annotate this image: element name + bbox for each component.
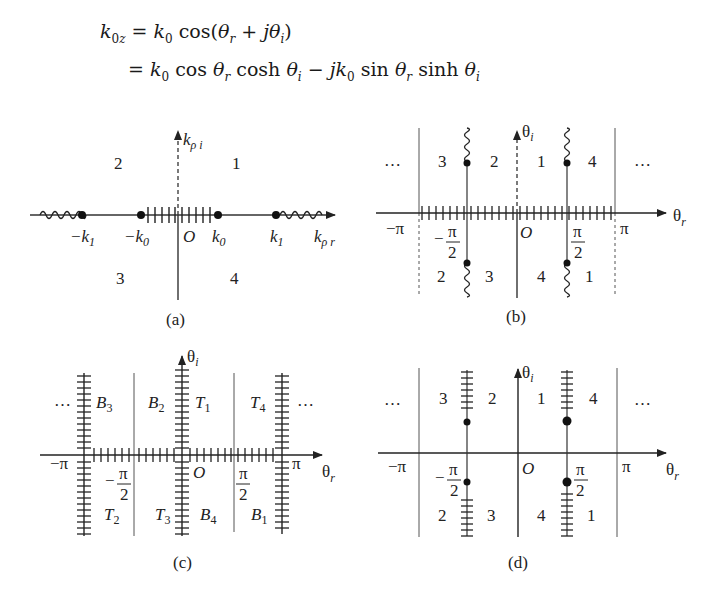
panel-c: θi θr −π π − π 2 π 2 O … … B3 B2 T1 T4 T… xyxy=(40,347,335,572)
branch-point xyxy=(563,478,572,487)
tick-half-pi: π 2 xyxy=(236,464,250,504)
region-label-T1: T1 xyxy=(195,393,210,415)
svg-text:π: π xyxy=(239,464,248,483)
axis-label-kpr: kρ r xyxy=(314,227,335,249)
wavy-line-lower-left xyxy=(465,263,470,297)
region-label: 2 xyxy=(438,506,447,525)
svg-text:−: − xyxy=(435,468,445,487)
label-k1: k1 xyxy=(270,227,284,249)
tick-neg-half-pi: − π 2 xyxy=(435,460,461,500)
region-label: 3 xyxy=(439,389,448,408)
svg-text:2: 2 xyxy=(448,243,457,262)
svg-text:π: π xyxy=(449,460,458,479)
axis-label-theta-i: θi xyxy=(187,347,199,369)
tick-pi: π xyxy=(620,219,629,238)
caption-a: (a) xyxy=(166,310,185,329)
region-label: 1 xyxy=(232,154,241,173)
region-label: 2 xyxy=(488,389,497,408)
point-k1 xyxy=(272,211,280,219)
region-label: 2 xyxy=(490,152,499,171)
tick-neg-pi: −π xyxy=(388,457,407,476)
region-label: 2 xyxy=(114,154,123,173)
tick-neg-half-pi: − π 2 xyxy=(105,464,131,504)
axis-label-theta-i: θi xyxy=(522,363,534,385)
wavy-line-lower-right xyxy=(565,263,570,297)
svg-text:−: − xyxy=(105,471,115,490)
tick-neg-pi: −π xyxy=(386,219,405,238)
axis-label-theta-i: θi xyxy=(522,122,534,144)
svg-text:π: π xyxy=(576,460,585,479)
caption-b: (b) xyxy=(506,307,526,326)
caption-d: (d) xyxy=(508,553,528,572)
region-label: 4 xyxy=(537,267,546,286)
region-label: 1 xyxy=(537,389,546,408)
branch-point xyxy=(464,160,471,167)
svg-text:π: π xyxy=(573,222,582,241)
axis-label-theta-r: θr xyxy=(673,206,686,229)
tick-pi: π xyxy=(622,457,631,476)
branch-point xyxy=(464,260,471,267)
tick-pi: π xyxy=(292,454,301,473)
wavy-line-upper-right xyxy=(565,128,570,162)
svg-text:2: 2 xyxy=(576,481,585,500)
svg-text:π: π xyxy=(119,464,128,483)
region-label: 4 xyxy=(537,506,546,525)
ellipsis-left: … xyxy=(54,391,71,410)
region-label: 3 xyxy=(487,506,496,525)
region-label-B1: B1 xyxy=(251,505,267,527)
region-label: 4 xyxy=(589,389,598,408)
region-label: 1 xyxy=(587,506,596,525)
axis-label-theta-r: θr xyxy=(322,462,335,485)
branch-point xyxy=(464,479,471,486)
label-neg-k1: −k1 xyxy=(70,227,95,249)
region-label-B3: B3 xyxy=(96,393,112,415)
ellipsis-left: … xyxy=(384,151,401,170)
label-neg-k0: −k0 xyxy=(124,227,149,249)
caption-c: (c) xyxy=(173,553,192,572)
region-label-T4: T4 xyxy=(250,393,265,415)
label-origin: O xyxy=(193,463,205,482)
region-label: 4 xyxy=(230,269,239,288)
svg-text:2: 2 xyxy=(450,481,459,500)
svg-text:2: 2 xyxy=(239,485,248,504)
region-label: 2 xyxy=(437,267,446,286)
point-neg-k0 xyxy=(137,211,145,219)
svg-text:2: 2 xyxy=(120,485,129,504)
panel-a: kρ i kρ r −k1 −k0 O k0 k1 2 1 3 4 (a) xyxy=(30,130,335,329)
ellipsis-right: … xyxy=(297,391,314,410)
label-origin: O xyxy=(183,227,195,246)
tick-half-pi: π 2 xyxy=(571,222,585,262)
panel-d: θi θr −π π − π 2 π 2 O … … 3 2 1 4 2 3 4… xyxy=(378,363,679,572)
branch-point xyxy=(564,260,571,267)
wavy-line-upper-left xyxy=(465,128,470,162)
tick-neg-pi: −π xyxy=(50,454,69,473)
region-label-B4: B4 xyxy=(200,505,216,527)
region-label-T3: T3 xyxy=(155,505,170,527)
region-label-T2: T2 xyxy=(104,505,119,527)
axis-label-kpi: kρ i xyxy=(183,130,203,152)
region-label: 1 xyxy=(537,152,546,171)
label-origin: O xyxy=(522,459,534,478)
svg-text:−: − xyxy=(434,229,444,248)
axis-label-theta-r: θr xyxy=(666,460,679,483)
region-label: 3 xyxy=(116,269,125,288)
region-label: 1 xyxy=(585,267,594,286)
label-k0: k0 xyxy=(212,227,226,249)
region-label: 4 xyxy=(588,152,597,171)
branch-point xyxy=(464,419,471,426)
panel-b: θi θr −π π − π 2 π 2 O … … 3 2 1 4 2 3 4… xyxy=(376,122,686,326)
point-neg-k1 xyxy=(78,211,86,219)
tick-half-pi: π 2 xyxy=(574,460,588,500)
region-label: 3 xyxy=(438,152,447,171)
region-label-B2: B2 xyxy=(148,393,164,415)
branch-cut-hatch xyxy=(461,372,573,536)
label-origin: O xyxy=(520,223,532,242)
svg-text:π: π xyxy=(448,222,457,241)
ellipsis-right: … xyxy=(634,151,651,170)
ellipsis-right: … xyxy=(634,390,651,409)
point-k0 xyxy=(214,211,222,219)
ellipsis-left: … xyxy=(384,390,401,409)
region-label: 3 xyxy=(485,267,494,286)
tick-neg-half-pi: − π 2 xyxy=(434,222,460,262)
branch-point xyxy=(564,160,571,167)
